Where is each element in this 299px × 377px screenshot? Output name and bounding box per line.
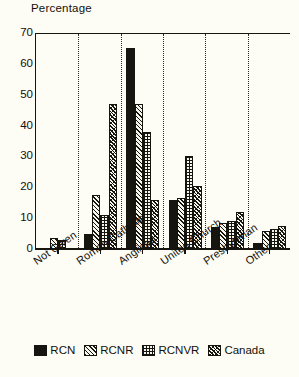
x-axis-label: Not Given (31, 228, 79, 266)
x-axis-label: Roman Catholic (74, 211, 146, 267)
bar-chart: Percentage 010203040506070 Not GivenRoma… (0, 0, 299, 377)
legend-label: RCN (50, 345, 75, 357)
legend-label: RCNVR (158, 345, 199, 357)
legend-swatch (208, 345, 221, 356)
legend-item[interactable]: RCNVR (142, 345, 199, 357)
x-axis-labels: Not GivenRoman CatholicAnglicanUnited Ch… (0, 0, 299, 377)
x-axis-label: Other (243, 241, 273, 267)
chart-legend: RCNRCNRRCNVRCanada (0, 345, 299, 357)
legend-label: RCNR (100, 345, 133, 357)
legend-item[interactable]: RCNR (84, 345, 133, 357)
legend-swatch (34, 345, 47, 356)
legend-item[interactable]: RCN (34, 345, 75, 357)
legend-swatch (84, 345, 97, 356)
legend-item[interactable]: Canada (208, 345, 264, 357)
legend-label: Canada (224, 345, 264, 357)
legend-swatch (142, 345, 155, 356)
